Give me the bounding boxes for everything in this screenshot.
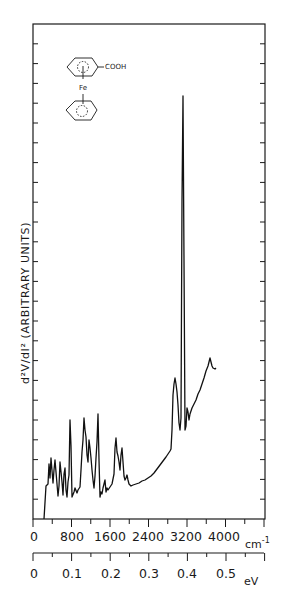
x-tick-ev-0.2: 0.2 bbox=[101, 566, 121, 581]
y-ticks-left bbox=[33, 44, 38, 499]
x-tick-ev-0.3: 0.3 bbox=[139, 566, 159, 581]
x-tick-cm-3200: 3200 bbox=[170, 529, 202, 544]
x-tick-cm-2400: 2400 bbox=[132, 529, 164, 544]
y-axis-label: d²V/dI² (ARBITRARY UNITS) bbox=[19, 203, 33, 403]
x-tick-cm-800: 800 bbox=[60, 529, 84, 544]
aromatic-ring-bottom bbox=[77, 106, 88, 117]
mol-fe-label: Fe bbox=[79, 84, 87, 92]
spectrum-line bbox=[44, 96, 216, 519]
x-tick-cm-0: 0 bbox=[30, 529, 38, 544]
x-tick-cm-4000: 4000 bbox=[208, 529, 240, 544]
y-ticks-right bbox=[260, 44, 265, 499]
x-axis-cm-ticks bbox=[33, 519, 264, 527]
x-axis-ev-ticks bbox=[33, 553, 265, 561]
x-tick-ev-0.5: 0.5 bbox=[216, 566, 236, 581]
x-unit-cm-text: cm bbox=[245, 538, 262, 551]
x-unit-cm-exponent: -1 bbox=[262, 536, 270, 545]
cyclopentadienyl-ring-top bbox=[67, 58, 98, 76]
plot-frame bbox=[33, 24, 265, 519]
cyclopentadienyl-ring-bottom bbox=[66, 101, 97, 120]
plot-area bbox=[0, 0, 283, 604]
x-unit-ev: eV bbox=[244, 575, 258, 588]
ir-spectrum-figure: COOH Fe d²V/dI² (ARBITRARY UNITS) 0 800 … bbox=[0, 0, 283, 604]
x-tick-ev-0.4: 0.4 bbox=[177, 566, 197, 581]
mol-cooh-label: COOH bbox=[105, 63, 126, 71]
x-tick-ev-0: 0 bbox=[30, 566, 38, 581]
x-tick-ev-0.1: 0.1 bbox=[62, 566, 82, 581]
x-unit-cm: cm-1 bbox=[245, 536, 270, 551]
x-tick-cm-1600: 1600 bbox=[94, 529, 126, 544]
